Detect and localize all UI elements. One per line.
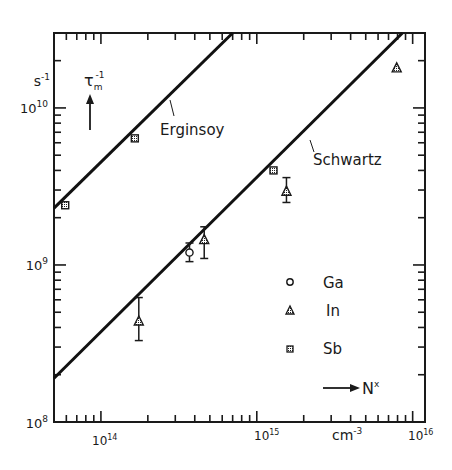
legend-in-marker: [286, 306, 294, 314]
legend: Ga In Sb: [286, 274, 344, 358]
legend-sb-marker: [287, 346, 293, 352]
x-tick-label-15: 1015: [254, 428, 279, 443]
sb-point: [62, 202, 69, 209]
legend-sb-label: Sb: [323, 340, 342, 358]
ga-point: [186, 249, 193, 256]
x-quantity-label: Nx: [362, 379, 380, 398]
plot-frame: [54, 33, 425, 422]
y-tick-label-9: 109: [26, 256, 49, 273]
y-tick-label-10: 1010: [20, 99, 48, 116]
theory-lines: [54, 33, 402, 378]
schwartz-line: [54, 33, 402, 378]
y-unit-label: s-1: [34, 72, 50, 89]
schwartz-label: Schwartz: [313, 151, 382, 169]
y-axis-arrow-icon: [86, 94, 94, 130]
scatter-chart: 1010 109 108 s-1 τm-1 1014 1015 1016 cm-…: [0, 0, 452, 470]
sb-point: [131, 135, 138, 142]
legend-ga-label: Ga: [323, 274, 344, 292]
in-point: [282, 186, 291, 195]
sb-point: [270, 167, 277, 174]
x-tick-label-16: 1016: [408, 428, 433, 443]
in-point: [134, 316, 143, 325]
x-axis-arrow-icon: [323, 384, 360, 392]
erginsoy-label: Erginsoy: [160, 121, 225, 139]
y-quantity-label: τm-1: [84, 70, 104, 92]
y-tick-label-8: 108: [26, 414, 49, 431]
legend-in-label: In: [326, 302, 340, 320]
erginsoy-leader: [170, 100, 174, 116]
axis-ticks: [54, 33, 425, 422]
x-tick-label-14: 1014: [92, 433, 117, 448]
legend-ga-marker: [287, 279, 293, 285]
in-point: [392, 63, 401, 72]
in-point: [200, 235, 209, 244]
x-unit-label: cm-3: [332, 426, 362, 443]
